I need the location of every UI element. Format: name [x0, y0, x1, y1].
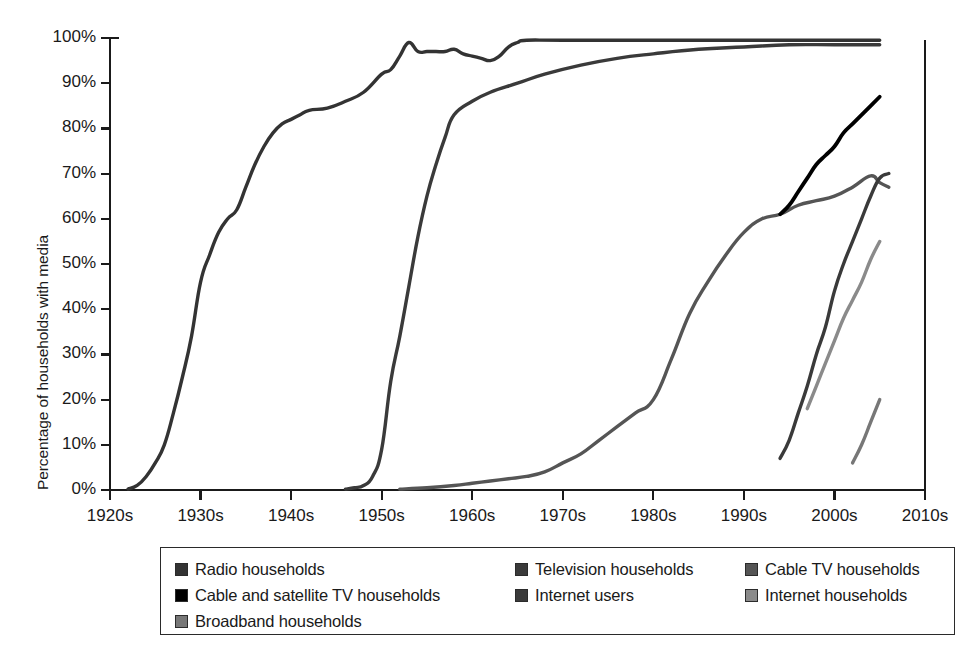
y-tick-label: 80% — [36, 117, 96, 137]
y-tick-label: 0% — [36, 479, 96, 499]
y-tick-label: 70% — [36, 163, 96, 183]
legend-item-label: Internet users — [535, 586, 634, 605]
x-tick-label: 1960s — [427, 506, 517, 526]
y-tick-label: 20% — [36, 389, 96, 409]
x-tick-label: 1950s — [337, 506, 427, 526]
y-tick-label: 60% — [36, 208, 96, 228]
legend-item[interactable]: Internet households — [745, 586, 965, 605]
legend-grid: Radio householdsTelevision householdsCab… — [175, 556, 944, 634]
legend-swatch-icon — [745, 563, 758, 576]
x-tick-label: 1980s — [608, 506, 698, 526]
series-lines — [128, 40, 889, 489]
legend-item-label: Broadband households — [195, 612, 362, 631]
legend-item-label: Cable and satellite TV households — [195, 586, 440, 605]
series-line — [400, 176, 889, 489]
legend-item-label: Internet households — [765, 586, 907, 605]
x-tick-label: 2000s — [789, 506, 879, 526]
legend-swatch-icon — [175, 589, 188, 602]
x-tick-label: 1930s — [156, 506, 246, 526]
x-tick-label: 1990s — [699, 506, 789, 526]
legend-item[interactable]: Television households — [515, 560, 745, 579]
legend-swatch-icon — [175, 615, 188, 628]
series-line — [345, 45, 879, 490]
chart-legend: Radio householdsTelevision householdsCab… — [160, 547, 955, 635]
x-tick-label: 1920s — [65, 506, 155, 526]
x-tick-label: 2010s — [880, 506, 965, 526]
y-tick-label: 40% — [36, 298, 96, 318]
legend-item[interactable]: Cable TV households — [745, 560, 965, 579]
legend-swatch-icon — [745, 589, 758, 602]
legend-item[interactable]: Broadband households — [175, 612, 515, 631]
legend-swatch-icon — [175, 563, 188, 576]
y-tick-label: 90% — [36, 72, 96, 92]
x-tick-label: 1940s — [246, 506, 336, 526]
legend-item[interactable]: Internet users — [515, 586, 745, 605]
legend-item[interactable]: Radio households — [175, 560, 515, 579]
chart-figure: Percentage of households with media 0%10… — [0, 0, 965, 651]
y-tick-label: 30% — [36, 343, 96, 363]
axis-lines — [101, 38, 925, 500]
legend-item-label: Television households — [535, 560, 693, 579]
line-chart-plot — [0, 0, 965, 540]
legend-item[interactable]: Cable and satellite TV households — [175, 586, 515, 605]
y-tick-label: 50% — [36, 253, 96, 273]
legend-item-label: Cable TV households — [765, 560, 920, 579]
legend-swatch-icon — [515, 563, 528, 576]
legend-item-label: Radio households — [195, 560, 325, 579]
y-tick-label: 100% — [36, 27, 96, 47]
legend-swatch-icon — [515, 589, 528, 602]
y-tick-label: 10% — [36, 434, 96, 454]
series-line — [128, 40, 880, 489]
x-tick-label: 1970s — [518, 506, 608, 526]
series-line — [853, 400, 880, 463]
